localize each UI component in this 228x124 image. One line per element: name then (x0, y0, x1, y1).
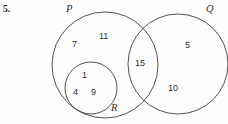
region-value-R-inner-lower-left: 4 (73, 88, 78, 97)
region-value-P-only-upper-left: 7 (72, 40, 77, 49)
set-label-Q: Q (206, 4, 214, 15)
region-value-R-inner-top: 1 (82, 71, 87, 80)
region-value-P-and-Q-intersect: 15 (135, 59, 145, 68)
venn-diagram-figure: 5. P Q R 7 11 1 4 9 15 5 10 (0, 0, 228, 124)
set-label-R: R (111, 103, 117, 114)
set-label-P: P (66, 4, 72, 15)
region-value-Q-only-lower: 10 (168, 84, 178, 93)
region-value-R-inner-lower-right: 9 (91, 88, 96, 97)
region-value-P-only-upper: 11 (99, 32, 108, 41)
region-value-Q-only-upper: 5 (185, 41, 190, 50)
